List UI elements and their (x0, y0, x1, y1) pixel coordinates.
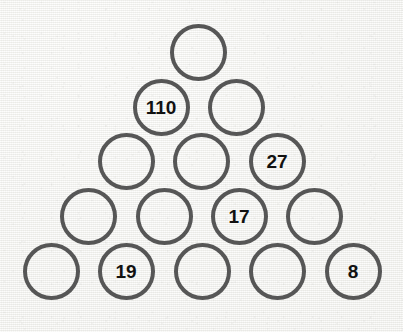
pyramid-circle-r5c2[interactable]: 19 (98, 243, 155, 300)
pyramid-circle-r2c2[interactable] (208, 79, 265, 136)
pyramid-circle-r5c4[interactable] (249, 243, 306, 300)
pyramid-circle-r4c2[interactable] (136, 188, 193, 245)
pyramid-circle-r1c1[interactable] (170, 24, 227, 81)
pyramid-circle-r3c3[interactable]: 27 (249, 133, 306, 190)
pyramid-circle-r3c1[interactable] (98, 133, 155, 190)
pyramid-circle-r4c1[interactable] (60, 188, 117, 245)
pyramid-circle-label-r5c2: 19 (115, 262, 136, 281)
number-pyramid-puzzle: 1102717198 (0, 0, 403, 332)
pyramid-circle-r5c3[interactable] (174, 243, 231, 300)
pyramid-circle-r3c2[interactable] (173, 133, 230, 190)
pyramid-circle-r4c3[interactable]: 17 (211, 188, 268, 245)
pyramid-circle-r4c4[interactable] (286, 188, 343, 245)
pyramid-circle-label-r4c3: 17 (228, 207, 249, 226)
pyramid-circle-r5c5[interactable]: 8 (325, 243, 382, 300)
pyramid-circle-r2c1[interactable]: 110 (133, 79, 190, 136)
pyramid-circle-r5c1[interactable] (23, 243, 80, 300)
pyramid-circle-label-r3c3: 27 (266, 152, 287, 171)
pyramid-circle-label-r2c1: 110 (146, 98, 177, 117)
pyramid-circle-label-r5c5: 8 (348, 262, 359, 281)
